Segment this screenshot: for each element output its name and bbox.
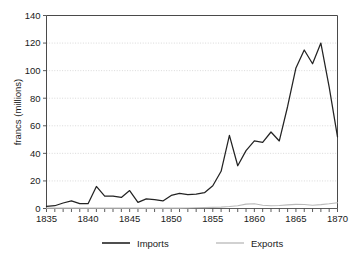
- x-tick-label: 1865: [285, 213, 306, 224]
- x-tick-label: 1835: [36, 213, 57, 224]
- y-tick-label: 20: [30, 175, 41, 186]
- y-tick-label: 60: [30, 120, 41, 131]
- x-tick-label: 1840: [78, 213, 99, 224]
- y-axis-ticks: [43, 16, 47, 209]
- series-line-imports: [47, 43, 338, 206]
- legend-label-exports: Exports: [251, 238, 283, 249]
- legend-label-imports: Imports: [137, 238, 169, 249]
- plot-area-border: [47, 16, 338, 209]
- x-tick-label: 1860: [244, 213, 265, 224]
- y-tick-label: 140: [25, 10, 41, 21]
- x-tick-label: 1855: [202, 213, 223, 224]
- x-axis-ticks: [47, 209, 338, 213]
- y-tick-label: 40: [30, 148, 41, 159]
- y-tick-label: 100: [25, 65, 41, 76]
- y-axis-title: francs (millions): [12, 79, 23, 146]
- y-axis-title-group: francs (millions): [12, 79, 23, 146]
- y-tick-label: 80: [30, 93, 41, 104]
- series-line-exports: [47, 203, 338, 208]
- x-tick-label: 1870: [327, 213, 348, 224]
- y-tick-label: 120: [25, 37, 41, 48]
- x-tick-label: 1845: [119, 213, 140, 224]
- line-chart: francs (millions) 020406080100120140 183…: [0, 0, 355, 263]
- legend: Imports Exports: [102, 238, 283, 249]
- chart-container: francs (millions) 020406080100120140 183…: [0, 0, 355, 263]
- gridlines: [47, 43, 338, 208]
- x-axis-tick-labels: 18351840184518501855186018651870: [36, 213, 348, 224]
- y-axis-tick-labels: 020406080100120140: [25, 10, 41, 214]
- x-tick-label: 1850: [161, 213, 182, 224]
